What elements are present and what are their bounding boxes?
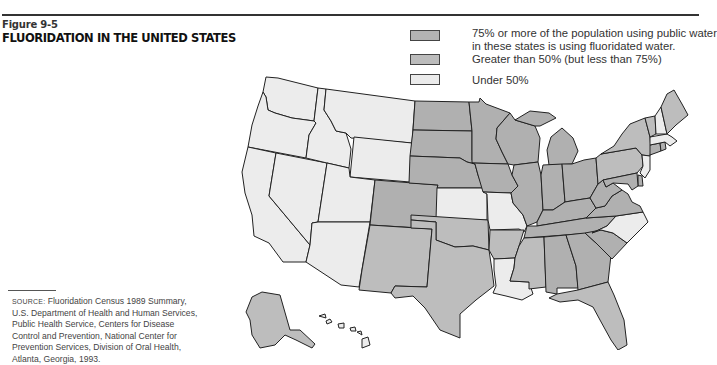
legend-swatch-mid bbox=[410, 54, 440, 65]
state-florida bbox=[549, 282, 627, 350]
source-label: SOURCE: bbox=[12, 298, 45, 305]
legend-label-low: Under 50% bbox=[472, 74, 529, 87]
legend-label-mid: Greater than 50% (but less than 75%) bbox=[472, 53, 662, 66]
state-north-dakota bbox=[413, 101, 472, 131]
state-wyoming bbox=[350, 137, 412, 182]
source-rule bbox=[8, 290, 56, 291]
state-hawaii bbox=[319, 314, 370, 348]
state-kansas bbox=[436, 188, 487, 220]
state-alaska bbox=[246, 292, 315, 348]
legend-label-high-line1: 75% or more of the population using publ… bbox=[472, 27, 717, 40]
state-arizona bbox=[306, 222, 370, 287]
legend-swatch-high bbox=[410, 30, 440, 41]
source-note: SOURCE: Fluoridation Census 1989 Summary… bbox=[12, 296, 202, 365]
state-maine bbox=[661, 90, 688, 134]
state-indiana bbox=[541, 164, 565, 210]
legend-label-high-line2: in these states is using fluoridated wat… bbox=[472, 40, 675, 53]
state-rhode-island bbox=[660, 142, 666, 151]
states-group bbox=[242, 77, 688, 350]
legend-swatch-low bbox=[410, 74, 440, 85]
source-text: Fluoridation Census 1989 Summary, U.S. D… bbox=[12, 296, 197, 364]
state-delaware bbox=[638, 175, 643, 186]
state-new-mexico bbox=[359, 225, 432, 293]
